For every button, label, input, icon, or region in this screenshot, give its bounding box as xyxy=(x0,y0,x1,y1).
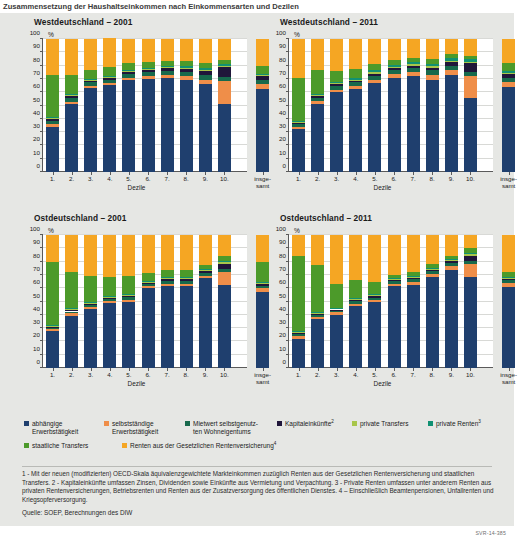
chart-subtitle: Ostdeutschland – 2001 xyxy=(34,213,126,223)
bar-segment xyxy=(142,281,155,282)
x-axis-tick-label: 10. xyxy=(464,175,477,182)
bar-decile[interactable] xyxy=(368,39,381,172)
bar-decile[interactable] xyxy=(161,39,174,172)
bar-decile[interactable] xyxy=(445,235,458,368)
bar-decile[interactable] xyxy=(464,235,477,368)
bar-decile[interactable] xyxy=(292,39,305,172)
bar-segment xyxy=(349,306,362,369)
bar-segment xyxy=(445,62,458,65)
bar-decile[interactable] xyxy=(199,39,212,172)
legend-item[interactable]: private Transfers xyxy=(352,420,428,428)
bar-segment xyxy=(407,39,420,58)
bar-segment xyxy=(445,263,458,266)
bar-decile[interactable] xyxy=(218,39,231,172)
bar-decile[interactable] xyxy=(142,235,155,368)
bar-segment xyxy=(65,272,78,309)
bar-decile[interactable] xyxy=(388,235,401,368)
bar-decile[interactable] xyxy=(426,39,439,172)
bar-segment xyxy=(180,284,193,287)
bar-decile[interactable] xyxy=(330,235,343,368)
bar-segment xyxy=(292,331,305,332)
bar-decile[interactable] xyxy=(199,235,212,368)
legend-label: staatliche Transfers xyxy=(32,442,88,450)
bar-decile[interactable] xyxy=(103,39,116,172)
bar-decile[interactable] xyxy=(311,235,324,368)
bar-decile[interactable] xyxy=(46,235,59,368)
bar-decile[interactable] xyxy=(426,235,439,368)
bar-decile[interactable] xyxy=(368,235,381,368)
bar-segment xyxy=(46,127,59,172)
bar-decile[interactable] xyxy=(142,39,155,172)
bar-segment xyxy=(311,315,324,317)
bar-segment xyxy=(502,73,515,74)
legend-item[interactable]: selbstständigeErwerbstätigkeit xyxy=(104,420,184,436)
bar-segment xyxy=(349,298,362,299)
legend-item[interactable]: Mietwert selbstgenutz-ten Wohneigentums xyxy=(185,420,275,436)
bar-decile[interactable] xyxy=(46,39,59,172)
x-axis-tick-label: 7. xyxy=(161,371,174,378)
bar-segment xyxy=(349,69,362,78)
bar-decile[interactable] xyxy=(349,39,362,172)
bar-decile[interactable] xyxy=(65,235,78,368)
bar-segment xyxy=(330,308,343,309)
legend-footnote-marker: 2 xyxy=(331,419,334,424)
bar-total[interactable] xyxy=(502,39,515,172)
bar-decile[interactable] xyxy=(349,235,362,368)
bar-decile[interactable] xyxy=(407,39,420,172)
bar-segment xyxy=(218,285,231,368)
legend-swatch-icon xyxy=(428,421,433,426)
bar-segment xyxy=(142,72,155,76)
bar-decile[interactable] xyxy=(84,235,97,368)
bar-segment xyxy=(65,75,78,94)
bar-decile[interactable] xyxy=(180,39,193,172)
bar-decile[interactable] xyxy=(122,235,135,368)
bar-decile[interactable] xyxy=(180,235,193,368)
bar-segment xyxy=(161,284,174,287)
bar-segment xyxy=(311,312,324,313)
x-axis-tick-label: 10. xyxy=(218,175,231,182)
bar-segment xyxy=(84,82,97,86)
bar-decile[interactable] xyxy=(218,235,231,368)
bar-segment xyxy=(161,286,174,368)
bar-segment xyxy=(388,284,401,287)
bar-segment xyxy=(199,276,212,279)
bar-segment xyxy=(311,317,324,319)
bar-decile[interactable] xyxy=(311,39,324,172)
bar-segment xyxy=(46,328,59,329)
bar-segment xyxy=(122,276,135,293)
bar-segment xyxy=(502,74,515,77)
bar-decile[interactable] xyxy=(407,235,420,368)
bar-decile[interactable] xyxy=(161,235,174,368)
chart-subtitle: Westdeutschland – 2011 xyxy=(280,17,378,27)
bar-segment xyxy=(84,307,97,310)
bar-segment xyxy=(161,39,174,61)
bar-decile[interactable] xyxy=(445,39,458,172)
bar-segment xyxy=(330,284,343,308)
bar-total[interactable] xyxy=(502,235,515,368)
bar-segment xyxy=(199,84,212,172)
bar-decile[interactable] xyxy=(65,39,78,172)
bar-decile[interactable] xyxy=(464,39,477,172)
bar-decile[interactable] xyxy=(103,235,116,368)
bar-segment xyxy=(84,39,97,70)
legend-item[interactable]: staatliche Transfers xyxy=(24,442,124,450)
bar-segment xyxy=(46,325,59,326)
bar-segment xyxy=(218,272,231,285)
bar-segment xyxy=(142,288,155,368)
bar-segment xyxy=(464,253,477,254)
bar-decile[interactable] xyxy=(330,39,343,172)
legend-item[interactable]: private Renten3 xyxy=(428,420,514,428)
legend-item[interactable]: Kapitaleinkünfte2 xyxy=(277,420,351,428)
bar-segment xyxy=(426,268,439,269)
legend-item[interactable]: abhängigeErwerbstätigkeit xyxy=(24,420,102,436)
bar-segment xyxy=(426,59,439,64)
bar-segment xyxy=(426,235,439,264)
legend-item[interactable]: Renten aus der Gesetzlichen Rentenversic… xyxy=(122,442,382,450)
bar-segment xyxy=(311,96,324,97)
bar-decile[interactable] xyxy=(292,235,305,368)
bar-decile[interactable] xyxy=(388,39,401,172)
bar-decile[interactable] xyxy=(122,39,135,172)
x-axis-total-label: insge-samt xyxy=(494,175,522,190)
bar-decile[interactable] xyxy=(84,39,97,172)
bar-segment xyxy=(368,294,381,295)
